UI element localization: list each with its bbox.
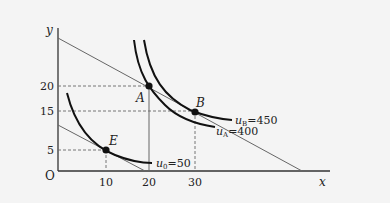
origin-label: O — [45, 169, 55, 183]
point-A — [145, 82, 152, 89]
curve-uA-label: uA=400 — [216, 125, 258, 139]
point-A-label: A — [135, 91, 145, 105]
curve-u0-label: u0=50 — [156, 157, 191, 171]
y-tick-15: 15 — [40, 105, 54, 118]
diagram-canvas: A B E uB=450 uA=400 u0=50 y x O 5 15 20 … — [0, 0, 390, 203]
x-tick-20: 20 — [142, 176, 156, 189]
x-tick-30: 30 — [188, 176, 202, 189]
x-axis-label: x — [319, 175, 326, 189]
y-axis-label: y — [45, 23, 53, 37]
indifference-curve-uB — [144, 40, 232, 120]
point-B-label: B — [195, 96, 205, 110]
y-tick-20: 20 — [40, 80, 54, 93]
x-tick-10: 10 — [99, 176, 113, 189]
point-E-label: E — [108, 134, 118, 148]
y-tick-5: 5 — [47, 144, 54, 157]
